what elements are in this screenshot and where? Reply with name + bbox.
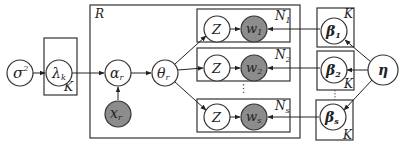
plate-label-r: R — [94, 7, 104, 21]
node-z1-label: Z — [211, 22, 222, 37]
node-w2: w2 — [241, 55, 267, 81]
node-x-label: x — [110, 105, 118, 121]
edge-theta-z2 — [178, 68, 203, 70]
node-w1: w1 — [241, 16, 267, 42]
node-ws: ws — [241, 104, 267, 130]
node-sigma2-sup: 2 — [22, 64, 28, 73]
plate-label-n1-sub: 1 — [286, 16, 291, 25]
plate-label-n2-sub: 2 — [285, 55, 291, 64]
node-sigma2: σ2 — [7, 60, 33, 86]
node-lambda-label: λ — [51, 65, 61, 81]
node-zs-label: Z — [211, 110, 222, 125]
node-w2-sub: 2 — [256, 67, 262, 76]
node-beta2-sub: 2 — [334, 69, 341, 79]
node-alpha: αr — [105, 60, 131, 86]
svg-text:Ns: Ns — [274, 99, 290, 115]
plate-label-beta2-k: K — [343, 77, 354, 91]
node-lambda-sub: k — [61, 73, 66, 82]
ellipsis: ⋮ — [238, 82, 249, 95]
edge-theta-zs — [175, 82, 206, 110]
node-z2: Z — [204, 55, 230, 81]
edge-theta-z1 — [175, 36, 206, 64]
plate-label-ns-sub: s — [286, 106, 290, 115]
node-betas-sub: s — [334, 116, 339, 126]
node-w2-label: w — [246, 60, 257, 75]
node-eta: η — [368, 55, 398, 85]
svg-text:N1: N1 — [274, 9, 291, 25]
node-beta1-sub: 1 — [335, 30, 341, 40]
node-lambda: λk — [46, 60, 72, 86]
node-x: xr — [105, 101, 131, 127]
node-w1-label: w — [246, 21, 257, 36]
graphical-model-diagram: K R N1 N2 Ns K K K — [0, 0, 409, 148]
node-beta2: β2 — [321, 57, 347, 83]
plate-label-beta1-k: K — [343, 7, 354, 21]
node-z1: Z — [204, 16, 230, 42]
node-z2-label: Z — [211, 61, 222, 76]
svg-text:N2: N2 — [274, 48, 291, 64]
node-theta: θr — [152, 60, 178, 86]
node-w1-sub: 1 — [257, 28, 262, 37]
plate-label-n2: N — [274, 48, 286, 62]
node-ws-sub: s — [257, 116, 261, 125]
plate-label-betas-k: K — [342, 128, 353, 142]
node-eta-label: η — [378, 62, 388, 78]
node-ws-label: w — [246, 109, 257, 124]
node-beta1: β1 — [321, 18, 347, 44]
plate-label-n1: N — [274, 9, 286, 23]
plate-label-ns: N — [274, 99, 286, 113]
node-zs: Z — [204, 104, 230, 130]
node-betas: βs — [320, 104, 346, 130]
